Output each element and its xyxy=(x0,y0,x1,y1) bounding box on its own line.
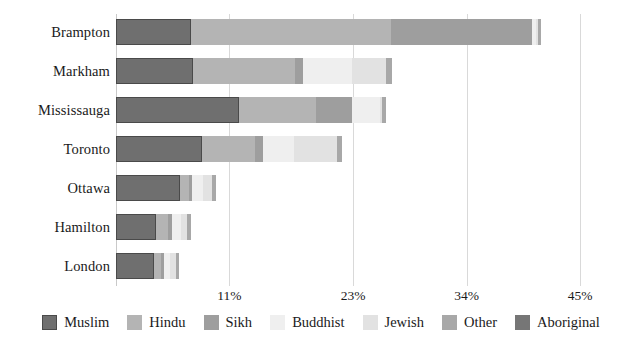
bar-segment-other xyxy=(386,58,392,84)
bar-segment-other xyxy=(382,97,386,123)
plot-area xyxy=(116,14,580,286)
bar-segment-hindu xyxy=(193,58,295,84)
bar-segment-hindu xyxy=(239,97,316,123)
bar-row xyxy=(116,253,179,279)
bar-segment-hindu xyxy=(180,175,189,201)
bar-segment-sikh xyxy=(255,136,263,162)
chart-legend: MuslimHinduSikhBuddhistJewishOtherAborig… xyxy=(0,308,642,336)
bar-segment-muslim xyxy=(116,253,154,279)
legend-swatch-jewish-icon xyxy=(363,315,378,330)
y-axis-label-brampton: Brampton xyxy=(4,19,110,45)
bar-segment-buddhist xyxy=(352,97,380,123)
legend-swatch-aboriginal-icon xyxy=(515,315,530,330)
legend-swatch-other-icon xyxy=(442,315,457,330)
bar-segment-other xyxy=(538,19,541,45)
bar-row xyxy=(116,58,392,84)
bar-row xyxy=(116,136,342,162)
legend-swatch-sikh-icon xyxy=(204,315,219,330)
bar-segment-buddhist xyxy=(263,136,294,162)
legend-item-buddhist[interactable]: Buddhist xyxy=(270,315,344,330)
bar-segment-jewish xyxy=(352,58,386,84)
bar-segment-buddhist xyxy=(192,175,202,201)
y-axis-label-markham: Markham xyxy=(4,58,110,84)
y-axis-label-ottawa: Ottawa xyxy=(4,175,110,201)
legend-label-aboriginal: Aboriginal xyxy=(537,315,600,330)
y-axis-category-labels: BramptonMarkhamMississaugaTorontoOttawaH… xyxy=(0,14,110,286)
bar-segment-muslim xyxy=(116,19,191,45)
bar-segment-hindu xyxy=(154,253,161,279)
y-axis-label-mississauga: Mississauga xyxy=(4,97,110,123)
legend-label-buddhist: Buddhist xyxy=(292,315,344,330)
bar-row xyxy=(116,175,216,201)
stacked-bar-chart: BramptonMarkhamMississaugaTorontoOttawaH… xyxy=(0,0,642,347)
bar-segment-buddhist xyxy=(172,214,181,240)
legend-label-sikh: Sikh xyxy=(226,315,253,330)
bar-segment-sikh xyxy=(295,58,302,84)
x-axis-tick-34: 34% xyxy=(454,288,479,304)
bar-segment-other xyxy=(212,175,216,201)
legend-label-jewish: Jewish xyxy=(385,315,424,330)
legend-item-sikh[interactable]: Sikh xyxy=(204,315,253,330)
legend-swatch-hindu-icon xyxy=(127,315,142,330)
bar-segment-other xyxy=(337,136,342,162)
bar-segment-jewish xyxy=(294,136,336,162)
bar-row xyxy=(116,19,541,45)
bar-segment-muslim xyxy=(116,97,239,123)
legend-item-aboriginal[interactable]: Aboriginal xyxy=(515,315,600,330)
bar-segment-muslim xyxy=(116,58,193,84)
x-axis-tick-23: 23% xyxy=(341,288,366,304)
bar-segment-other xyxy=(176,253,179,279)
bar-segment-sikh xyxy=(316,97,352,123)
legend-item-other[interactable]: Other xyxy=(442,315,497,330)
gridline-34 xyxy=(467,14,468,286)
legend-item-jewish[interactable]: Jewish xyxy=(363,315,424,330)
legend-swatch-buddhist-icon xyxy=(270,315,285,330)
bar-segment-buddhist xyxy=(303,58,352,84)
y-axis-label-hamilton: Hamilton xyxy=(4,214,110,240)
bar-segment-jewish xyxy=(203,175,212,201)
bar-segment-other xyxy=(187,214,191,240)
bar-segment-hindu xyxy=(191,19,391,45)
legend-label-other: Other xyxy=(464,315,497,330)
bar-segment-sikh xyxy=(391,19,531,45)
legend-label-hindu: Hindu xyxy=(149,315,185,330)
bar-segment-muslim xyxy=(116,136,202,162)
y-axis-label-london: London xyxy=(4,253,110,279)
x-axis-tick-45: 45% xyxy=(568,288,593,304)
legend-swatch-muslim-icon xyxy=(42,315,57,330)
gridline-23 xyxy=(353,14,354,286)
bar-row xyxy=(116,214,191,240)
bar-segment-muslim xyxy=(116,175,180,201)
y-axis-label-toronto: Toronto xyxy=(4,136,110,162)
legend-item-muslim[interactable]: Muslim xyxy=(42,315,109,330)
x-axis-tick-11: 11% xyxy=(217,288,241,304)
bar-segment-hindu xyxy=(156,214,167,240)
x-axis-tick-labels: 11%23%34%45% xyxy=(0,288,642,308)
legend-label-muslim: Muslim xyxy=(64,315,109,330)
legend-item-hindu[interactable]: Hindu xyxy=(127,315,185,330)
bar-segment-hindu xyxy=(202,136,256,162)
gridline-45 xyxy=(580,14,581,286)
bar-segment-muslim xyxy=(116,214,156,240)
bar-row xyxy=(116,97,386,123)
